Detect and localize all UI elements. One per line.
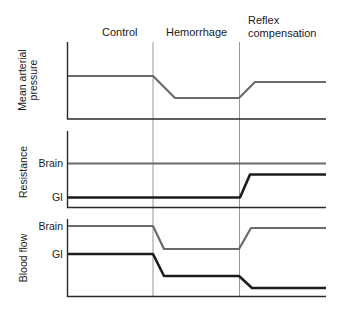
axis-resistance xyxy=(68,131,327,208)
series-line-flow-brain xyxy=(68,226,326,249)
hemorrhage-reflex-diagram: Control Hemorrhage Reflex compensation M… xyxy=(0,0,343,309)
series-line-flow-gi xyxy=(68,254,326,288)
tick-label-resistance-gi: GI xyxy=(52,191,63,203)
panel-blood-flow: Blood flow Brain GI xyxy=(17,219,326,297)
ylabel-map-line2: pressure xyxy=(27,59,39,100)
panel-resistance: Resistance Brain GI xyxy=(17,131,326,208)
series-line-resistance-gi xyxy=(68,175,326,198)
axis-blood-flow xyxy=(68,219,327,297)
ylabel-blood-flow: Blood flow xyxy=(17,233,29,282)
axis-map xyxy=(68,42,327,119)
ylabel-resistance: Resistance xyxy=(17,146,29,198)
panel-mean-arterial-pressure: Mean arterial pressure xyxy=(16,42,326,119)
series-line-map xyxy=(68,76,326,98)
phase-label-control: Control xyxy=(102,26,137,38)
tick-label-flow-gi: GI xyxy=(52,248,63,260)
phase-label-reflex-line1: Reflex xyxy=(248,14,280,26)
tick-label-resistance-brain: Brain xyxy=(38,157,63,169)
phase-label-hemorrhage: Hemorrhage xyxy=(166,26,227,38)
tick-label-flow-brain: Brain xyxy=(38,220,63,232)
phase-label-reflex-line2: compensation xyxy=(248,27,317,39)
